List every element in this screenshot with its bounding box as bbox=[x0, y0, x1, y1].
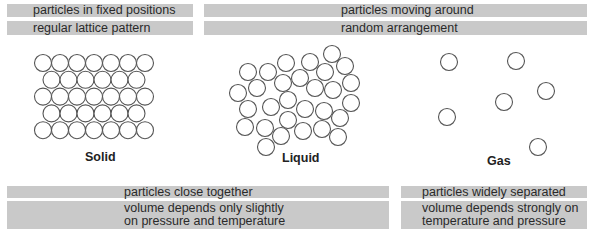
particle-circle bbox=[94, 71, 111, 88]
particle-circle bbox=[120, 55, 137, 72]
particle-circle bbox=[292, 70, 309, 87]
particle-circle bbox=[496, 94, 513, 111]
gas-label: Gas bbox=[487, 154, 511, 168]
condensed-property-close: particles close together bbox=[7, 186, 389, 198]
particle-circle bbox=[302, 54, 319, 71]
particle-circle bbox=[280, 112, 297, 129]
particle-circle bbox=[317, 64, 334, 81]
particle-circle bbox=[52, 88, 69, 105]
particle-circle bbox=[43, 105, 60, 122]
particle-circle bbox=[111, 105, 128, 122]
particle-circle bbox=[86, 122, 103, 139]
particle-circle bbox=[94, 105, 111, 122]
particle-circle bbox=[508, 53, 525, 70]
particle-circle bbox=[297, 101, 314, 118]
particle-circle bbox=[530, 139, 547, 156]
particle-circle bbox=[43, 71, 60, 88]
particle-circle bbox=[237, 119, 254, 136]
particle-circle bbox=[128, 105, 145, 122]
particle-circle bbox=[52, 55, 69, 72]
particle-circle bbox=[240, 101, 257, 118]
particle-circle bbox=[35, 55, 52, 72]
particle-circle bbox=[275, 75, 292, 92]
particle-circle bbox=[278, 55, 295, 72]
solid-label: Solid bbox=[85, 150, 116, 164]
particle-circle bbox=[441, 54, 458, 71]
particle-circle bbox=[103, 122, 120, 139]
particle-circle bbox=[35, 122, 52, 139]
particle-circle bbox=[280, 92, 297, 109]
particle-circle bbox=[332, 110, 349, 127]
particle-circle bbox=[343, 75, 360, 92]
particle-circle bbox=[86, 88, 103, 105]
particle-circle bbox=[330, 129, 347, 146]
particle-circle bbox=[128, 71, 145, 88]
particle-circle bbox=[249, 80, 266, 97]
particle-circle bbox=[137, 55, 154, 72]
gas-property-volume: volume depends strongly on temperature a… bbox=[401, 201, 587, 229]
particle-circle bbox=[69, 55, 86, 72]
particle-circle bbox=[86, 55, 103, 72]
particle-circle bbox=[439, 109, 456, 126]
particle-circle bbox=[273, 128, 290, 145]
particle-circle bbox=[69, 122, 86, 139]
particle-circle bbox=[120, 122, 137, 139]
particle-circle bbox=[52, 122, 69, 139]
particle-circle bbox=[295, 123, 312, 140]
particle-circle bbox=[325, 82, 342, 99]
particle-circle bbox=[120, 88, 137, 105]
particle-circle bbox=[337, 58, 354, 75]
particle-circle bbox=[103, 88, 120, 105]
particle-circle bbox=[260, 64, 277, 81]
condensed-property-volume: volume depends only slightly on pressure… bbox=[7, 201, 389, 229]
particle-circle bbox=[111, 71, 128, 88]
particle-circle bbox=[316, 103, 333, 120]
particle-circle bbox=[324, 46, 341, 63]
particle-circle bbox=[230, 85, 247, 102]
gas-particles bbox=[439, 53, 555, 156]
label: particles widely separated bbox=[422, 186, 587, 198]
particle-circle bbox=[77, 71, 94, 88]
particle-circle bbox=[103, 55, 120, 72]
particle-circle bbox=[257, 120, 274, 137]
liquid-label: Liquid bbox=[282, 151, 320, 165]
particle-circle bbox=[307, 80, 324, 97]
particle-circle bbox=[77, 105, 94, 122]
label-line-2: temperature and pressure bbox=[422, 215, 587, 228]
particle-circle bbox=[314, 121, 331, 138]
particle-circle bbox=[137, 88, 154, 105]
particle-circle bbox=[240, 64, 257, 81]
particle-circle bbox=[538, 83, 555, 100]
label-line-2: on pressure and temperature bbox=[124, 215, 389, 228]
particle-circle bbox=[60, 71, 77, 88]
particle-circle bbox=[35, 88, 52, 105]
solid-particles bbox=[35, 55, 154, 139]
particle-circle bbox=[263, 99, 280, 116]
gas-property-separated: particles widely separated bbox=[401, 186, 587, 198]
particle-circle bbox=[343, 95, 360, 112]
particle-circle bbox=[258, 139, 275, 156]
particle-circle bbox=[69, 88, 86, 105]
liquid-particles bbox=[230, 46, 360, 156]
particle-circle bbox=[137, 122, 154, 139]
label: particles close together bbox=[124, 186, 389, 198]
particle-circle bbox=[60, 105, 77, 122]
